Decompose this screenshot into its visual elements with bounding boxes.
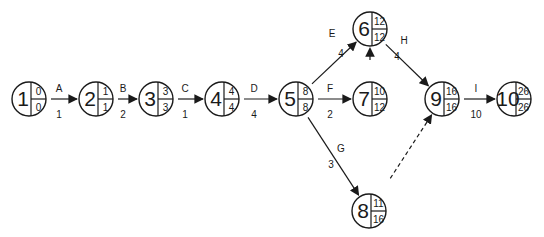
node-number: 4 — [210, 87, 222, 110]
node-1: 100 — [12, 82, 46, 116]
edge-4-5: D4 — [244, 83, 277, 120]
node-6: 61212 — [353, 12, 387, 46]
node-5: 588 — [279, 82, 313, 116]
node-number: 1 — [17, 87, 29, 110]
late-time: 4 — [229, 102, 235, 113]
activity-arrow — [386, 44, 429, 85]
late-time: 0 — [36, 102, 42, 113]
node-number: 9 — [430, 87, 442, 110]
early-time: 26 — [518, 86, 530, 97]
activity-label: I — [475, 83, 478, 94]
edge-9-10: I10 — [464, 83, 495, 120]
duration-label: 4 — [251, 109, 257, 120]
early-time: 8 — [303, 86, 309, 97]
late-time: 8 — [303, 102, 309, 113]
early-time: 10 — [374, 86, 386, 97]
node-number: 3 — [144, 87, 156, 110]
early-time: 12 — [374, 16, 386, 27]
edge-3-4: C1 — [178, 83, 203, 120]
activity-label: E — [329, 28, 336, 39]
activity-label: G — [337, 143, 345, 154]
edges-layer: A1B2C1D4E4F2G3H4I10 — [51, 28, 495, 195]
node-8: 81116 — [352, 194, 386, 228]
activity-arrow — [312, 42, 356, 84]
activity-label: C — [181, 83, 188, 94]
dummy-arrow — [390, 115, 431, 178]
network-diagram: A1B2C1D4E4F2G3H4I10 10021133344458861212… — [0, 0, 544, 237]
node-number: 7 — [358, 87, 370, 110]
late-time: 12 — [374, 102, 386, 113]
node-9: 91616 — [425, 82, 459, 116]
early-time: 3 — [163, 86, 169, 97]
duration-label: 3 — [328, 159, 334, 170]
early-time: 0 — [36, 86, 42, 97]
edge-8-9 — [390, 115, 431, 178]
edge-1-2: A1 — [51, 83, 77, 120]
node-7: 71012 — [353, 82, 387, 116]
node-3: 333 — [139, 82, 173, 116]
duration-label: 2 — [120, 109, 126, 120]
node-number: 5 — [284, 87, 296, 110]
early-time: 1 — [103, 86, 109, 97]
node-4: 444 — [205, 82, 239, 116]
edge-5-8: G3 — [308, 117, 359, 195]
late-time: 1 — [103, 102, 109, 113]
node-number: 6 — [358, 17, 370, 40]
late-time: 16 — [446, 102, 458, 113]
node-number: 2 — [84, 87, 96, 110]
activity-label: H — [400, 35, 407, 46]
early-time: 16 — [446, 86, 458, 97]
activity-label: A — [56, 83, 63, 94]
late-time: 3 — [163, 102, 169, 113]
duration-label: 1 — [56, 109, 62, 120]
node-10: 102626 — [496, 82, 531, 116]
duration-label: 10 — [470, 109, 482, 120]
activity-label: B — [120, 83, 127, 94]
node-number: 10 — [496, 87, 519, 110]
late-time: 26 — [518, 102, 530, 113]
nodes-layer: 1002113334445886121271012811169161610262… — [12, 12, 531, 228]
late-time: 12 — [374, 32, 386, 43]
node-2: 211 — [79, 82, 113, 116]
activity-label: D — [250, 83, 257, 94]
edge-5-7: F2 — [318, 83, 351, 120]
edge-6-9: H4 — [386, 35, 429, 86]
duration-label: 2 — [327, 109, 333, 120]
duration-label: 1 — [182, 109, 188, 120]
node-number: 8 — [357, 199, 369, 222]
duration-label: 4 — [394, 51, 400, 62]
early-time: 4 — [229, 86, 235, 97]
activity-label: F — [327, 83, 333, 94]
edge-2-3: B2 — [118, 83, 137, 120]
late-time: 16 — [373, 214, 385, 225]
edge-5-6: E4 — [312, 28, 356, 84]
duration-label: 4 — [338, 48, 344, 59]
activity-arrow — [308, 117, 359, 195]
early-time: 11 — [373, 198, 384, 209]
